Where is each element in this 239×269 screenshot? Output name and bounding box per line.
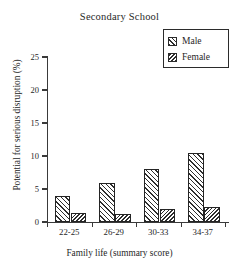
x-tick-label: 22-25	[46, 228, 92, 237]
y-axis-title: Potential for serious disruption (%)	[12, 45, 22, 205]
x-tick-mark	[225, 222, 226, 227]
x-tick-mark	[181, 222, 182, 227]
y-tick-label: 15	[19, 119, 39, 128]
bar-male-34-37	[188, 153, 204, 222]
legend-item-male: Male	[168, 33, 228, 49]
y-tick-label: 10	[19, 152, 39, 161]
male-hatch-swatch-icon	[168, 37, 177, 46]
legend-label-male: Male	[182, 36, 202, 46]
y-tick-label: 0	[19, 218, 39, 227]
plot-area	[47, 57, 225, 222]
bar-male-22-25	[55, 196, 71, 222]
y-tick-label: 25	[19, 53, 39, 62]
x-tick-label: 34-37	[180, 228, 226, 237]
bar-male-30-33	[144, 169, 160, 222]
y-tick-label: 20	[19, 86, 39, 95]
x-tick-label: 30-33	[135, 228, 181, 237]
bar-female-34-37	[204, 207, 220, 222]
x-tick-mark	[136, 222, 137, 227]
x-tick-mark	[92, 222, 93, 227]
bar-female-30-33	[160, 209, 176, 222]
y-tick-label: 5	[19, 185, 39, 194]
x-tick-mark	[47, 222, 48, 227]
x-tick-label: 26-29	[91, 228, 137, 237]
bar-female-22-25	[71, 213, 87, 222]
x-axis-title: Family life (summary score)	[0, 248, 239, 258]
bar-female-26-29	[115, 214, 131, 222]
bar-chart-figure: Secondary School Male Female 0510152025 …	[0, 0, 239, 269]
bar-male-26-29	[99, 183, 115, 222]
